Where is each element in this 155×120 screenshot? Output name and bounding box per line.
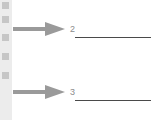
side-character	[2, 72, 9, 79]
side-character	[2, 53, 9, 60]
item-number: 3	[70, 87, 75, 97]
right-arrow-icon	[13, 22, 65, 36]
side-character	[2, 34, 9, 41]
item-number: 2	[70, 24, 75, 34]
answer-line[interactable]	[75, 100, 151, 101]
side-character	[2, 2, 9, 9]
answer-line[interactable]	[75, 37, 151, 38]
side-character	[2, 16, 9, 23]
side-strip	[0, 0, 12, 120]
right-arrow-icon	[13, 85, 65, 99]
